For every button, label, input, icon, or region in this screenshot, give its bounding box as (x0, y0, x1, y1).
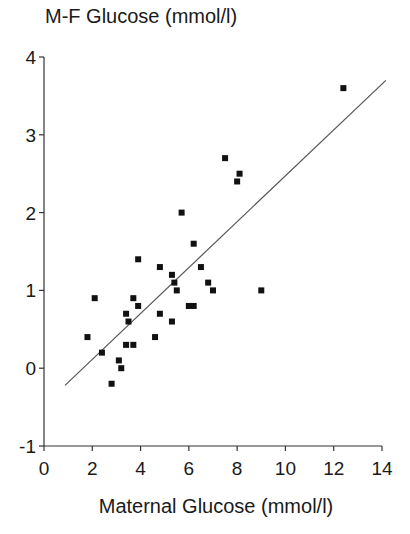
data-point (234, 178, 240, 184)
data-point (157, 311, 163, 317)
y-tick-label: 2 (25, 203, 36, 224)
x-tick-label: 0 (39, 458, 50, 479)
y-tick-label: 4 (25, 47, 36, 68)
data-point (174, 287, 180, 293)
data-point (99, 350, 105, 356)
regression-line (65, 80, 386, 385)
data-point (258, 287, 264, 293)
data-point (135, 303, 141, 309)
data-point (205, 280, 211, 286)
data-point (157, 264, 163, 270)
data-point (191, 303, 197, 309)
x-axis-title: Maternal Glucose (mmol/l) (0, 495, 410, 518)
data-point (340, 85, 346, 91)
x-tick-label: 8 (232, 458, 243, 479)
data-point (126, 319, 132, 325)
x-tick-label: 14 (371, 458, 393, 479)
y-tick-label: -1 (19, 436, 36, 457)
data-point (84, 334, 90, 340)
y-tick-label: 0 (25, 358, 36, 379)
data-point (135, 256, 141, 262)
data-point (152, 334, 158, 340)
data-point (191, 241, 197, 247)
x-tick-label: 10 (275, 458, 296, 479)
data-point (169, 319, 175, 325)
data-point (222, 155, 228, 161)
scatter-plot: -10123402468101214 (0, 0, 410, 534)
data-point (179, 210, 185, 216)
data-point (130, 295, 136, 301)
data-point (198, 264, 204, 270)
x-tick-label: 2 (87, 458, 98, 479)
data-point (118, 365, 124, 371)
data-point (210, 287, 216, 293)
y-tick-label: 3 (25, 125, 36, 146)
x-tick-label: 6 (184, 458, 195, 479)
data-point (171, 280, 177, 286)
x-tick-label: 12 (323, 458, 344, 479)
data-point (237, 171, 243, 177)
data-point (92, 295, 98, 301)
x-tick-label: 4 (135, 458, 146, 479)
data-point (130, 342, 136, 348)
data-point (123, 342, 129, 348)
data-point (169, 272, 175, 278)
data-point (109, 381, 115, 387)
data-point (116, 357, 122, 363)
data-point (123, 311, 129, 317)
y-tick-label: 1 (25, 280, 36, 301)
